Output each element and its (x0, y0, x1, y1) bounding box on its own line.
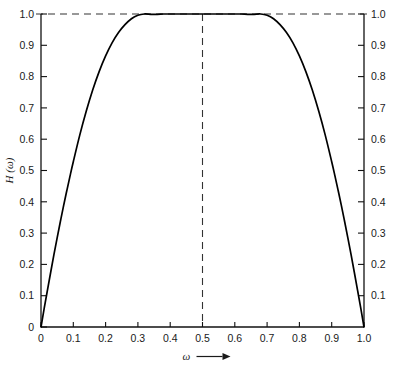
x-tick-label: 0.6 (227, 332, 242, 344)
y-tick-label-right: 0.5 (371, 164, 386, 176)
x-tick-label: 0.5 (195, 332, 210, 344)
plot-canvas: 00.10.20.30.40.50.60.70.80.91.0 00.10.20… (0, 0, 402, 369)
y-tick-label-left: 1.0 (19, 8, 34, 20)
y-tick-label-right: 0.3 (371, 227, 386, 239)
x-tick-label: 0 (38, 332, 44, 344)
y-tick-label-right: 1.0 (371, 8, 386, 20)
y-tick-label-left: 0.2 (19, 258, 34, 270)
y-tick-label-left: 0.3 (19, 227, 34, 239)
x-tick-label: 1.0 (357, 332, 372, 344)
y-tick-label-left: 0.1 (19, 289, 34, 301)
x-tick-label: 0.7 (260, 332, 275, 344)
y-tick-label-right: 0.6 (371, 133, 386, 145)
x-tick-label: 0.9 (324, 332, 339, 344)
y-axis-right-tick-labels: 0.10.20.30.40.50.60.70.80.91.0 (371, 8, 386, 302)
x-tick-label: 0.1 (66, 332, 81, 344)
y-tick-label-left: 0.4 (19, 196, 34, 208)
y-axis-right-ticks (358, 14, 364, 296)
y-tick-label-left: 0.7 (19, 102, 34, 114)
y-tick-label-right: 0.2 (371, 258, 386, 270)
x-tick-label: 0.2 (98, 332, 113, 344)
chart-figure: 00.10.20.30.40.50.60.70.80.91.0 00.10.20… (0, 0, 402, 369)
y-axis-title: H (ω) (3, 157, 16, 184)
y-tick-label-left: 0.8 (19, 70, 34, 82)
y-tick-label-right: 0.1 (371, 289, 386, 301)
x-axis-arrow-icon (197, 353, 231, 360)
y-tick-label-left: 0.5 (19, 164, 34, 176)
y-tick-label-left: 0.6 (19, 133, 34, 145)
x-tick-label: 0.3 (131, 332, 146, 344)
dashed-guides (36, 14, 369, 327)
y-tick-label-right: 0.9 (371, 39, 386, 51)
y-tick-label-right: 0.7 (371, 102, 386, 114)
x-axis-tick-labels: 00.10.20.30.40.50.60.70.80.91.0 (38, 332, 371, 344)
x-tick-label: 0.8 (292, 332, 307, 344)
y-tick-label-left: 0 (28, 321, 34, 333)
y-axis-left-ticks (41, 14, 47, 327)
x-axis-title: ω (183, 350, 191, 362)
x-axis-ticks (41, 322, 364, 327)
x-tick-label: 0.4 (163, 332, 178, 344)
y-axis-left-tick-labels: 00.10.20.30.40.50.60.70.80.91.0 (19, 8, 34, 333)
y-tick-label-left: 0.9 (19, 39, 34, 51)
y-tick-label-right: 0.4 (371, 196, 386, 208)
y-tick-label-right: 0.8 (371, 70, 386, 82)
